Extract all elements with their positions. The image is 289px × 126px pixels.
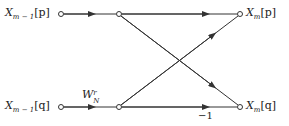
label-input-p: Xm − 1[p] [5, 6, 50, 21]
node-input-p [59, 12, 64, 17]
label-twiddle-factor: WrN [82, 88, 101, 101]
label-negation: −1 [198, 110, 213, 121]
node-output-q [238, 105, 243, 110]
label-input-q: Xm − 1[q] [5, 99, 50, 114]
butterfly-diagram: Xm − 1[p] Xm − 1[q] Xm[p] Xm[q] WrN −1 [0, 0, 289, 126]
node-mid-q [117, 105, 122, 110]
node-input-q [59, 105, 64, 110]
label-output-q: Xm[q] [246, 99, 276, 114]
node-mid-p [117, 12, 122, 17]
label-output-p: Xm[p] [246, 6, 276, 21]
node-output-p [238, 12, 243, 17]
